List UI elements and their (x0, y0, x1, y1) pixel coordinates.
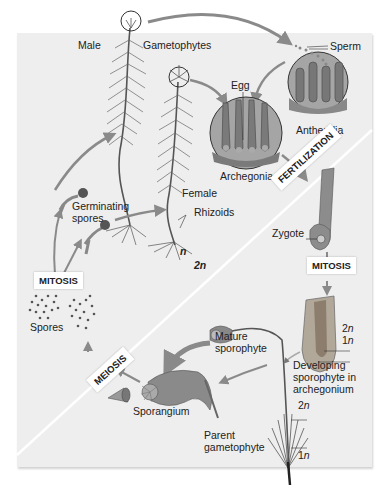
antheridia-circle-icon (288, 45, 348, 114)
spore-dot-1 (78, 188, 88, 198)
male-label: Male (78, 39, 101, 51)
arrow-male-to-sperm (148, 14, 288, 42)
arrow-sperm-to-archegonia (255, 62, 285, 100)
archegonia-label: Archegonia (220, 170, 273, 182)
stalk-2n-label: 2n (298, 399, 310, 411)
dev-1n-label: 1n (342, 334, 354, 346)
arrow-female-to-archegonia (190, 80, 225, 102)
arrow-mature-to-sporangium-large (168, 343, 210, 368)
dev-2n-label: 2n (342, 322, 354, 334)
haploid-marker: n (180, 245, 186, 257)
moss-life-cycle-artwork (0, 0, 383, 497)
zygote-label: Zygote (272, 227, 304, 239)
gametophytes-label: Gametophytes (143, 39, 211, 51)
mature-sporophyte-label: Mature sporophyte (215, 330, 267, 354)
female-gametophyte-icon (148, 65, 193, 260)
stalk-1n-label: 1n (298, 449, 310, 461)
female-label: Female (182, 187, 217, 199)
sperm-label: Sperm (330, 40, 361, 52)
mitosis-box-left: MITOSIS (34, 272, 83, 289)
parent-gametophyte-label: Parent gametophyte (204, 429, 265, 453)
egg-label: Egg (231, 79, 250, 91)
zygote-archegonium-icon (306, 168, 334, 250)
ploidy-divider-line (17, 130, 372, 455)
diploid-marker: 2n (194, 259, 206, 271)
rhizoids-label: Rhizoids (194, 206, 234, 218)
germinating-spores-label: Germinating spores (72, 200, 129, 224)
sporangium-label: Sporangium (133, 405, 190, 417)
spores-label: Spores (30, 321, 63, 333)
arrow-developing-to-sporangium (222, 365, 267, 382)
arrow-spore-to-male (55, 135, 112, 190)
developing-sporophyte-label: Developing sporophyte in archegonium (293, 359, 356, 395)
mitosis-box-right: MITOSIS (307, 257, 356, 274)
archegonia-circle-icon (210, 92, 282, 169)
